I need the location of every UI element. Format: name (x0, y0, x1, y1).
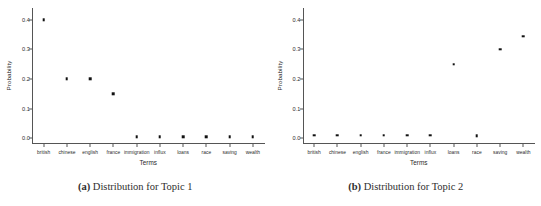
y-axis-line-a (32, 8, 33, 144)
x-tick-mark (407, 144, 408, 147)
scatter-panel-a (32, 8, 265, 144)
x-tick-mark (66, 144, 67, 147)
data-point (66, 78, 69, 81)
figure-container: Probability 0.00.10.20.30.4 britishchine… (0, 0, 541, 206)
y-tick-mark (300, 108, 303, 109)
x-tick-label: british (308, 150, 321, 155)
x-tick-mark (430, 144, 431, 147)
data-point (522, 35, 525, 38)
x-tick-label: loans (448, 150, 460, 155)
x-tick-mark (90, 144, 91, 147)
data-point (182, 135, 185, 138)
data-point (499, 48, 502, 51)
data-point (452, 63, 455, 66)
x-tick-label: english (82, 150, 98, 155)
y-axis-title-label-b: Probability (275, 60, 282, 90)
x-axis-title-b: Terms (303, 159, 536, 166)
x-tick-label: immigration (394, 150, 420, 155)
scatter-panel-b (303, 8, 536, 144)
x-tick-label: france (107, 150, 121, 155)
y-tick-mark (300, 49, 303, 50)
x-tick-label: chinese (329, 150, 346, 155)
x-axis-title-a: Terms (32, 159, 265, 166)
x-tick-label: wealth (246, 150, 260, 155)
x-tick-label: france (377, 150, 391, 155)
x-tick-label: influx (425, 150, 437, 155)
subfigure-b: Probability 0.00.10.20.30.4 britishchine… (271, 0, 541, 206)
y-tick-mark (300, 19, 303, 20)
y-axis-tick-labels-b: 0.00.10.20.30.4 (285, 8, 301, 144)
x-tick-label: english (353, 150, 369, 155)
x-tick-mark (314, 144, 315, 147)
x-tick-label: wealth (516, 150, 530, 155)
data-point (336, 134, 339, 137)
x-tick-label: race (472, 150, 482, 155)
x-tick-mark (252, 144, 253, 147)
data-point (429, 134, 432, 137)
y-tick-mark (29, 19, 32, 20)
subfigure-a: Probability 0.00.10.20.30.4 britishchine… (0, 0, 271, 206)
y-axis-title-label-a: Probability (5, 60, 12, 90)
x-tick-mark (159, 144, 160, 147)
x-tick-label: influx (154, 150, 166, 155)
y-tick-mark (29, 49, 32, 50)
caption-text-a: Distribution for Topic 1 (93, 181, 193, 192)
x-tick-mark (136, 144, 137, 147)
data-point (406, 134, 409, 137)
plot-area-b: Probability 0.00.10.20.30.4 britishchine… (271, 0, 541, 174)
y-axis-line-b (303, 8, 304, 144)
data-point (205, 135, 208, 138)
x-tick-mark (113, 144, 114, 147)
y-tick-mark (300, 78, 303, 79)
x-tick-mark (453, 144, 454, 147)
data-point (42, 19, 45, 22)
data-point (313, 134, 316, 137)
x-tick-mark (360, 144, 361, 147)
y-tick-mark (29, 78, 32, 79)
caption-a: (a) Distribution for Topic 1 (0, 181, 271, 192)
y-tick-mark (300, 138, 303, 139)
x-tick-mark (500, 144, 501, 147)
caption-tag-a: (a) (78, 181, 90, 192)
caption-tag-b: (b) (348, 181, 361, 192)
data-point (383, 134, 386, 137)
x-tick-mark (206, 144, 207, 147)
x-tick-label: chinese (58, 150, 75, 155)
x-tick-label: race (202, 150, 212, 155)
data-point (112, 92, 115, 95)
data-point (228, 135, 231, 138)
x-tick-mark (229, 144, 230, 147)
plot-area-a: Probability 0.00.10.20.30.4 britishchine… (0, 0, 271, 174)
x-tick-mark (183, 144, 184, 147)
x-tick-mark (523, 144, 524, 147)
data-point (476, 134, 479, 137)
x-tick-label: british (37, 150, 50, 155)
x-tick-mark (337, 144, 338, 147)
y-axis-tick-labels-a: 0.00.10.20.30.4 (14, 8, 30, 144)
caption-b: (b) Distribution for Topic 2 (271, 181, 541, 192)
x-tick-label: immigration (124, 150, 150, 155)
data-point (89, 78, 92, 81)
data-point (135, 135, 138, 138)
x-tick-label: loans (177, 150, 189, 155)
y-tick-mark (29, 138, 32, 139)
x-tick-mark (43, 144, 44, 147)
y-tick-mark (29, 108, 32, 109)
data-point (359, 134, 362, 137)
x-tick-mark (383, 144, 384, 147)
x-tick-label: saving (222, 150, 236, 155)
x-tick-mark (476, 144, 477, 147)
x-tick-label: saving (493, 150, 507, 155)
data-point (159, 135, 162, 138)
data-point (252, 135, 255, 138)
caption-text-b: Distribution for Topic 2 (364, 181, 464, 192)
